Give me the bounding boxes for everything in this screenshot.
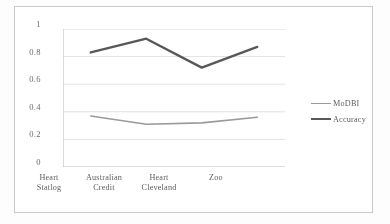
y-tick-label-0: 0	[15, 157, 41, 167]
x-tick-line-1: Zoo	[185, 173, 247, 183]
legend-line-swatch-modbi	[311, 103, 331, 104]
legend-label-accuracy: Accuracy	[333, 115, 366, 124]
y-tick-label-0.8: 0.8	[15, 47, 41, 57]
legend-item-modbi[interactable]: MoDBI	[311, 95, 387, 111]
x-tick-line-2: Cleveland	[128, 183, 190, 193]
plot-area	[63, 29, 285, 167]
legend-line-swatch-accuracy	[311, 118, 331, 120]
series-line-accuracy	[91, 39, 258, 68]
series-line-modbi	[91, 116, 258, 124]
legend-label-modbi: MoDBI	[333, 99, 359, 108]
figure-frame: 1 0.8 0.6 0.4 0.2 0	[14, 6, 373, 213]
x-tick-label-heart-statlog: Heart Statlog	[18, 173, 80, 193]
y-tick-label-0.2: 0.2	[15, 129, 41, 139]
y-tick-label-1: 1	[15, 19, 41, 29]
chart-figure: 1 0.8 0.6 0.4 0.2 0	[0, 0, 390, 224]
y-tick-label-0.4: 0.4	[15, 102, 41, 112]
chart-legend: MoDBI Accuracy	[311, 95, 387, 127]
x-tick-line-1: Heart	[128, 173, 190, 183]
x-tick-label-australian-credit: Australian Credit	[73, 173, 135, 193]
x-tick-line-1: Heart	[18, 173, 80, 183]
legend-item-accuracy[interactable]: Accuracy	[311, 111, 387, 127]
x-tick-label-zoo: Zoo	[185, 173, 247, 183]
data-series-lines	[63, 29, 285, 167]
x-tick-line-2: Credit	[73, 183, 135, 193]
x-tick-label-heart-cleveland: Heart Cleveland	[128, 173, 190, 193]
x-tick-line-1: Australian	[73, 173, 135, 183]
y-tick-label-0.6: 0.6	[15, 74, 41, 84]
x-tick-line-2: Statlog	[18, 183, 80, 193]
